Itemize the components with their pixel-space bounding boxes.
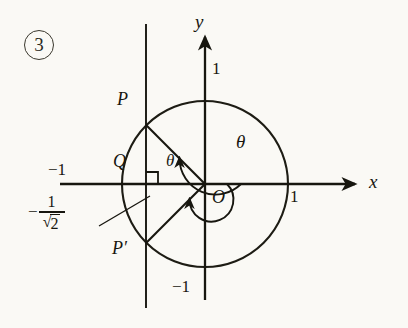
figure-canvas: 3 x y xyxy=(0,0,408,328)
radius-op-prime xyxy=(146,184,205,243)
theta-label-outer: θ xyxy=(236,132,245,151)
x-tick-label-positive-one: 1 xyxy=(290,188,299,205)
x-tick-label-negative-one: −1 xyxy=(48,161,66,178)
point-label-origin: O xyxy=(212,188,225,206)
right-angle-marker-at-q xyxy=(146,172,158,184)
point-label-p: P xyxy=(117,90,128,108)
fraction-minus-sign: − xyxy=(28,203,38,222)
fraction-numerator: 1 xyxy=(45,194,59,211)
y-tick-label-positive-one: 1 xyxy=(212,60,221,77)
fraction-denominator: √ 2 xyxy=(40,213,64,232)
x-axis-label: x xyxy=(369,172,377,191)
theta-label-inner: θ xyxy=(166,152,174,169)
y-tick-label-negative-one: −1 xyxy=(172,278,190,295)
radius-op xyxy=(146,125,205,184)
radicand: 2 xyxy=(50,214,60,232)
vertical-line-value-label: − 1 √ 2 xyxy=(28,194,65,232)
point-label-q: Q xyxy=(113,152,126,170)
y-axis-label: y xyxy=(195,12,203,31)
point-label-p-prime: P′ xyxy=(112,239,127,257)
